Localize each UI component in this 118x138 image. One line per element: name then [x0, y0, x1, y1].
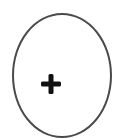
oval-shape [12, 13, 112, 138]
plus-icon [40, 73, 62, 95]
diagram-canvas [0, 0, 118, 138]
